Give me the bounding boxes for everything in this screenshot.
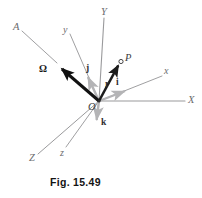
origin-label-O: O — [88, 102, 96, 113]
unit-vector-label-j: j — [86, 64, 89, 74]
origin-marker-dot — [98, 100, 101, 103]
axis-label-Z: Z — [29, 153, 35, 164]
axis-label-y: y — [63, 25, 67, 35]
vector-label-r: r — [105, 80, 109, 90]
point-label-P: P — [125, 53, 131, 64]
figure-container: Y X Z x y z i j k r Ω A P O Fig. 15.49 — [0, 0, 202, 198]
vector-omega-arrow — [62, 69, 99, 101]
figure-caption: Fig. 15.49 — [50, 176, 101, 188]
axis-label-z: z — [60, 148, 64, 158]
unit-vector-label-i: i — [116, 78, 119, 88]
point-P-marker — [119, 59, 123, 63]
axis-label-Y: Y — [101, 7, 107, 18]
axis-Y-line — [99, 18, 104, 101]
vector-diagram-svg — [0, 0, 202, 198]
vector-label-omega: Ω — [39, 64, 47, 74]
unit-vector-label-k: k — [101, 118, 106, 128]
line-label-A: A — [13, 22, 19, 33]
line-A-axis — [22, 31, 57, 63]
axis-label-X: X — [188, 95, 194, 106]
axis-label-x: x — [164, 66, 168, 76]
